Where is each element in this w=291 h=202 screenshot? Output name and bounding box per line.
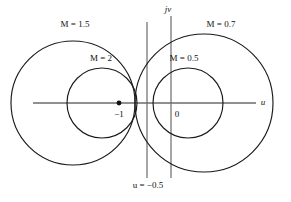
label-u-axis: u	[261, 97, 266, 107]
label-vertical-line: u = −0.5	[133, 180, 164, 190]
label-jv-axis: jv	[164, 4, 172, 14]
label-origin: 0	[175, 109, 180, 119]
label-m-0-5: M = 0.5	[170, 53, 199, 63]
label-m-2: M = 2	[90, 53, 112, 63]
label-m-1-5: M = 1.5	[61, 19, 90, 29]
constant-m-circles-figure: M = 1.5 M = 2 M = 0.7 M = 0.5 u = −0.5 −…	[0, 0, 291, 202]
figure-canvas: M = 1.5 M = 2 M = 0.7 M = 0.5 u = −0.5 −…	[0, 0, 291, 202]
label-m-0-7: M = 0.7	[207, 19, 236, 29]
label-critical-point: −1	[114, 109, 124, 119]
figure-background	[0, 0, 291, 202]
critical-point-marker	[117, 101, 122, 106]
